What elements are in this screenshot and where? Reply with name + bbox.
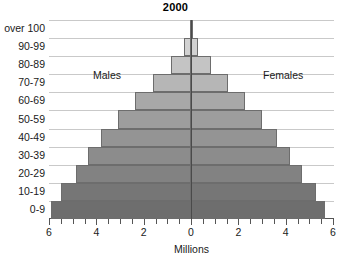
y-axis-label-90-99: 90-99	[0, 41, 45, 52]
bar-female-10-19	[191, 183, 316, 201]
x-axis-tick	[215, 219, 216, 224]
x-axis-tick	[274, 219, 275, 224]
x-axis-tick	[61, 219, 62, 224]
x-axis-tick-labels: 6420246	[49, 226, 334, 240]
x-axis-tick	[73, 219, 74, 224]
y-axis-label-30-39: 30-39	[0, 150, 45, 161]
y-axis-label-over 100: over 100	[0, 23, 45, 34]
center-axis-line	[191, 20, 192, 219]
x-axis-tick	[191, 219, 192, 225]
x-axis-tick	[167, 219, 168, 224]
x-axis-tick	[156, 219, 157, 224]
x-axis-tick	[108, 219, 109, 224]
y-axis-label-60-69: 60-69	[0, 95, 45, 106]
x-axis-tick	[85, 219, 86, 224]
y-axis-label-80-89: 80-89	[0, 59, 45, 70]
bar-female-30-39	[191, 147, 290, 165]
bar-male-80-89	[171, 56, 191, 74]
x-axis-tick	[238, 219, 239, 225]
bar-male-30-39	[88, 147, 191, 165]
bar-female-80-89	[191, 56, 211, 74]
x-axis-tick	[321, 219, 322, 224]
x-axis-tick	[227, 219, 228, 224]
bar-female-70-79	[191, 74, 228, 92]
bar-female-50-59	[191, 110, 262, 128]
x-axis-tick	[144, 219, 145, 225]
x-axis-tick	[262, 219, 263, 224]
bar-female-0-9	[191, 201, 325, 219]
x-axis-tick	[286, 219, 287, 225]
x-axis-title: Millions	[49, 243, 334, 255]
x-axis-tick	[49, 219, 50, 225]
x-axis-tick	[96, 219, 97, 225]
x-axis-tick	[179, 219, 180, 224]
chart-title: 2000	[0, 1, 351, 13]
bar-male-50-59	[118, 110, 191, 128]
females-label: Females	[263, 69, 303, 81]
x-axis-tick-label: 6	[318, 226, 348, 238]
x-axis-tick-label: 4	[81, 226, 111, 238]
y-axis-label-70-79: 70-79	[0, 77, 45, 88]
x-axis-tick-label: 2	[223, 226, 253, 238]
x-axis-tick-label: 0	[176, 226, 206, 238]
bar-female-40-49	[191, 129, 277, 147]
x-axis-tick	[298, 219, 299, 224]
x-axis-tick	[120, 219, 121, 224]
x-axis-tick	[132, 219, 133, 224]
x-axis-tick	[309, 219, 310, 224]
plot-area	[49, 20, 334, 219]
x-axis-tick	[250, 219, 251, 224]
y-axis-label-20-29: 20-29	[0, 168, 45, 179]
y-axis-label-40-49: 40-49	[0, 132, 45, 143]
bar-male-10-19	[61, 183, 191, 201]
bar-female-60-69	[191, 92, 245, 110]
bar-male-60-69	[135, 92, 191, 110]
y-axis-labels: 0-910-1920-2930-3940-4950-5960-6970-7980…	[0, 20, 45, 219]
x-axis-tick-label: 4	[271, 226, 301, 238]
bar-male-90-99	[184, 38, 191, 56]
y-axis-label-10-19: 10-19	[0, 186, 45, 197]
population-pyramid-chart: 2000 0-910-1920-2930-3940-4950-5960-6970…	[0, 0, 351, 267]
bar-male-40-49	[101, 129, 191, 147]
bar-female-90-99	[191, 38, 198, 56]
bar-male-70-79	[153, 74, 191, 92]
y-axis-label-0-9: 0-9	[0, 204, 45, 215]
x-axis-tick-label: 2	[129, 226, 159, 238]
x-axis-tick	[333, 219, 334, 225]
x-axis-tick-label: 6	[34, 226, 64, 238]
y-axis-label-50-59: 50-59	[0, 114, 45, 125]
bar-female-20-29	[191, 165, 302, 183]
x-axis-tick	[203, 219, 204, 224]
males-label: Males	[93, 69, 121, 81]
bar-male-0-9	[51, 201, 191, 219]
x-axis-ticks	[49, 219, 334, 225]
bar-male-20-29	[76, 165, 191, 183]
